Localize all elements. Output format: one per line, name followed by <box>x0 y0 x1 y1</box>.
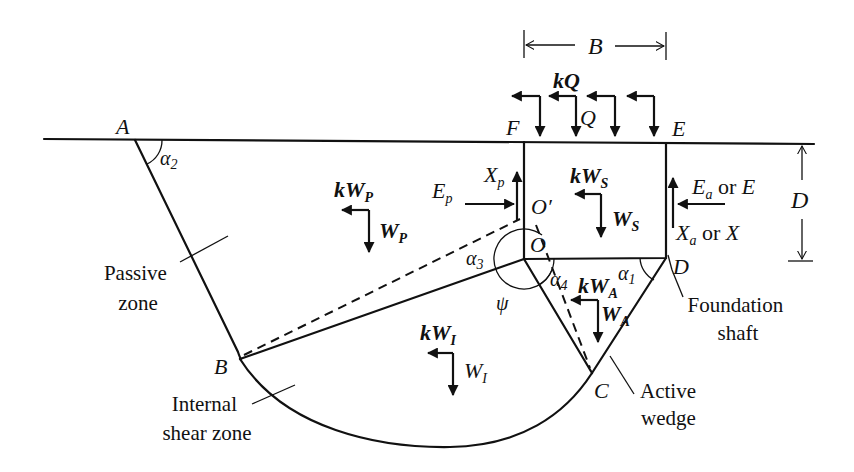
point-E-label: E <box>671 116 686 141</box>
point-D-label: D <box>672 254 689 279</box>
log-spiral-shear-boundary <box>240 359 592 447</box>
alpha3-label: α3 <box>466 247 484 272</box>
shear-zone-leader <box>252 385 295 404</box>
Ws-label: WS <box>612 206 640 234</box>
foundation-shaft-label: Foundation shaft <box>688 293 789 345</box>
D-dim-label: D <box>790 187 808 213</box>
kWa-label: kWA <box>578 273 618 301</box>
alpha4-label: α4 <box>550 268 568 293</box>
Wa-label: WA <box>601 301 630 329</box>
point-Oprime-label: O′ <box>531 194 553 219</box>
Ea-label: Ea or E <box>691 174 756 202</box>
Ep-label: Ep <box>431 178 452 206</box>
point-B-label: B <box>214 354 227 379</box>
Q-label: Q <box>580 105 596 130</box>
passive-zone-label: Passive zone <box>104 261 172 315</box>
internal-shear-zone-label: Internal shear zone <box>162 392 251 445</box>
kW1-label: kWI <box>420 320 457 348</box>
Xa-label: Xa or X <box>675 220 741 248</box>
point-C-label: C <box>594 378 609 403</box>
W1-label: WI <box>464 358 488 386</box>
point-O-label: O <box>530 232 546 257</box>
point-F-label: F <box>505 115 520 140</box>
alpha1-label: α1 <box>618 262 636 287</box>
passive-zone-boundary <box>135 140 241 359</box>
kWp-label: kWP <box>334 177 374 205</box>
point-A-label: A <box>114 114 130 139</box>
kWs-label: kWS <box>570 163 609 191</box>
kQ-label: kQ <box>553 68 580 93</box>
B-dim-label: B <box>588 33 603 59</box>
Xp-label: Xp <box>483 162 504 190</box>
ground-surface-line <box>44 139 814 144</box>
foundation-shaft-leader <box>668 255 672 270</box>
line-B-O <box>240 259 524 359</box>
active-wedge-leader <box>610 356 634 394</box>
Wp-label: WP <box>379 218 408 246</box>
active-wedge-label: Active wedge <box>640 379 701 430</box>
psi-label: ψ <box>496 292 509 315</box>
foundation-failure-mechanism-diagram: B D kQ Q A F E O O′ D B C α2 α3 α4 α1 ψ … <box>0 0 854 472</box>
alpha1-arc <box>640 258 654 280</box>
alpha2-label: α2 <box>160 147 178 172</box>
